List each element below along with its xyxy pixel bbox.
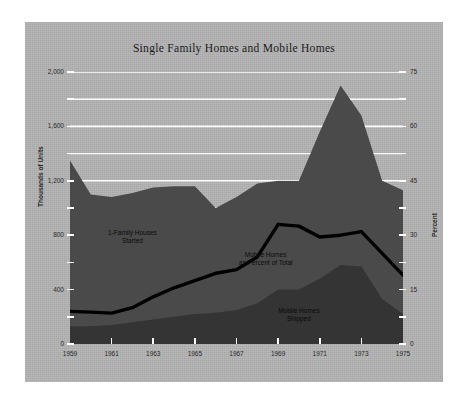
- tick-mark: [361, 338, 363, 344]
- tick-mark: [152, 338, 154, 344]
- x-tick: 1975: [386, 350, 420, 357]
- y-tick-left: 2,000: [30, 68, 64, 75]
- annotation-3: Mobile Homes Shipped: [259, 307, 339, 323]
- x-tick: 1973: [344, 350, 378, 357]
- tick-mark: [67, 234, 74, 236]
- tick-mark: [399, 153, 406, 155]
- tick-mark: [399, 234, 406, 236]
- tick-mark: [67, 126, 74, 128]
- tick-mark: [399, 98, 406, 100]
- y-tick-right: 0: [410, 340, 444, 347]
- tick-mark: [236, 338, 238, 344]
- tick-mark: [399, 207, 406, 209]
- tick-mark: [399, 180, 406, 182]
- y-tick-right: 30: [410, 231, 444, 238]
- x-tick: 1961: [95, 350, 129, 357]
- y-tick-left: 1,600: [30, 122, 64, 129]
- tick-mark: [399, 289, 406, 291]
- y-tick-left: 1,200: [30, 177, 64, 184]
- chart-svg: [70, 72, 403, 344]
- tick-mark: [67, 98, 74, 100]
- y-tick-left: 800: [30, 231, 64, 238]
- tick-mark: [277, 338, 279, 344]
- tick-mark: [194, 338, 196, 344]
- annotation-2: Mobile Homes as Percent of Total: [226, 251, 306, 267]
- x-tick: 1963: [136, 350, 170, 357]
- tick-mark: [67, 153, 74, 155]
- y-tick-right: 45: [410, 177, 444, 184]
- y-tick-right: 60: [410, 122, 444, 129]
- tick-mark: [111, 338, 113, 344]
- tick-mark: [399, 71, 406, 73]
- tick-mark: [399, 126, 406, 128]
- x-tick: 1967: [220, 350, 254, 357]
- tick-mark: [67, 262, 74, 264]
- tick-mark: [67, 71, 74, 73]
- annotation-1: 1-Family Houses Started: [92, 229, 172, 245]
- tick-mark: [319, 338, 321, 344]
- tick-mark: [67, 289, 74, 291]
- plot-area: [70, 72, 403, 344]
- x-tick: 1969: [261, 350, 295, 357]
- tick-mark: [399, 262, 406, 264]
- x-tick: 1971: [303, 350, 337, 357]
- tick-mark: [67, 180, 74, 182]
- tick-mark: [67, 207, 74, 209]
- tick-mark: [67, 343, 74, 345]
- y-tick-right: 15: [410, 286, 444, 293]
- y-tick-left: 400: [30, 286, 64, 293]
- y-tick-left: 0: [30, 340, 64, 347]
- chart-panel: Single Family Homes and Mobile Homes Tho…: [25, 22, 443, 382]
- y-tick-right: 75: [410, 68, 444, 75]
- x-tick: 1959: [53, 350, 87, 357]
- tick-mark: [399, 316, 406, 318]
- chart-title: Single Family Homes and Mobile Homes: [25, 42, 443, 54]
- tick-mark: [67, 316, 74, 318]
- tick-mark: [399, 343, 406, 345]
- x-tick: 1965: [178, 350, 212, 357]
